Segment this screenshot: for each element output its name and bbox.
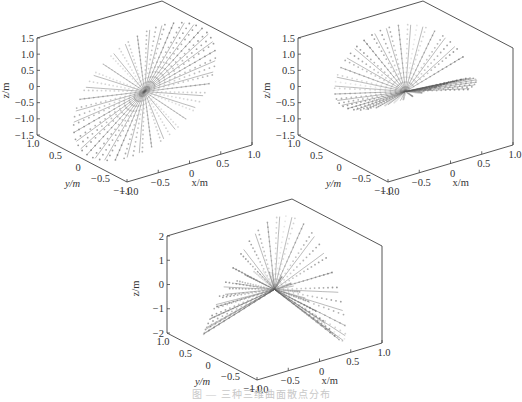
z-tick-label: −1.0 xyxy=(276,113,295,124)
x-tick-label: −0.5 xyxy=(151,177,170,188)
y-axis-label: y/m xyxy=(325,178,342,189)
x-tick-label: −0.5 xyxy=(412,177,431,188)
z-tick-label: 0 xyxy=(29,81,34,92)
z-tick-label: 1.5 xyxy=(21,33,34,44)
y-tick-label: 0 xyxy=(336,162,341,173)
plot-wave-svg: 210−1−21.00.50−0.5−1.0−1.0−0.500.51.0z/m… xyxy=(130,198,391,398)
z-axis-label: z/m xyxy=(261,83,272,99)
plot-disk-svg: 1.51.00.50−0.5−1.0−1.51.00.50−0.5−1.0−1.… xyxy=(0,0,261,200)
y-tick-label: 1.0 xyxy=(26,138,39,149)
y-tick-label: 0 xyxy=(75,162,80,173)
y-tick-label: 1.0 xyxy=(156,336,169,347)
y-tick-label: −0.5 xyxy=(221,371,240,382)
z-tick-label: 0.5 xyxy=(21,65,34,76)
z-axis-label: z/m xyxy=(130,281,141,297)
plot-saddle-svg: 1.51.00.50−0.5−1.0−1.51.00.50−0.5−1.0−1.… xyxy=(261,0,522,200)
y-tick-label: −0.5 xyxy=(91,173,110,184)
z-tick-label: 0 xyxy=(290,81,295,92)
figure-caption: 图 — 三种三维曲面散点分布 xyxy=(0,386,522,401)
z-tick-label: −1 xyxy=(153,303,164,314)
x-tick-label: 1.0 xyxy=(508,149,521,160)
x-axis-label: x/m xyxy=(192,177,208,188)
plot-disk: 1.51.00.50−0.5−1.0−1.51.00.50−0.5−1.0−1.… xyxy=(0,0,261,200)
y-tick-label: −0.5 xyxy=(352,173,371,184)
z-tick-label: 1 xyxy=(159,255,164,266)
surface-points xyxy=(203,215,346,342)
y-axis-label: y/m xyxy=(64,178,81,189)
y-tick-label: 0 xyxy=(205,360,210,371)
z-tick-label: −0.5 xyxy=(15,97,34,108)
z-tick-label: 1.0 xyxy=(282,49,295,60)
y-tick-label: 1.0 xyxy=(287,138,300,149)
x-tick-label: 1.0 xyxy=(247,149,260,160)
z-tick-label: −1.0 xyxy=(15,113,34,124)
x-tick-label: 1.0 xyxy=(377,347,390,358)
z-axis-label: z/m xyxy=(0,83,11,99)
z-tick-label: 0.5 xyxy=(282,65,295,76)
z-tick-label: 1.0 xyxy=(21,49,34,60)
x-tick-label: −1.0 xyxy=(380,186,399,197)
x-axis-label: x/m xyxy=(453,177,469,188)
z-tick-label: 2 xyxy=(159,231,164,242)
z-tick-label: 1.5 xyxy=(282,33,295,44)
plot-saddle: 1.51.00.50−0.5−1.0−1.51.00.50−0.5−1.0−1.… xyxy=(261,0,522,200)
y-tick-label: 0.5 xyxy=(179,348,192,359)
x-tick-label: 0.5 xyxy=(346,356,359,367)
y-tick-label: 0.5 xyxy=(49,150,62,161)
x-tick-label: −1.0 xyxy=(119,186,138,197)
plot-wave: 210−1−21.00.50−0.5−1.0−1.0−0.500.51.0z/m… xyxy=(130,198,391,398)
surface-points xyxy=(73,22,216,161)
surface-points xyxy=(334,24,477,111)
x-axis-label: x/m xyxy=(322,375,338,386)
z-tick-label: 0 xyxy=(159,279,164,290)
y-tick-label: 0.5 xyxy=(310,150,323,161)
x-tick-label: −0.5 xyxy=(281,375,300,386)
x-tick-label: 0.5 xyxy=(477,158,490,169)
z-tick-label: −0.5 xyxy=(276,97,295,108)
x-tick-label: 0.5 xyxy=(216,158,229,169)
